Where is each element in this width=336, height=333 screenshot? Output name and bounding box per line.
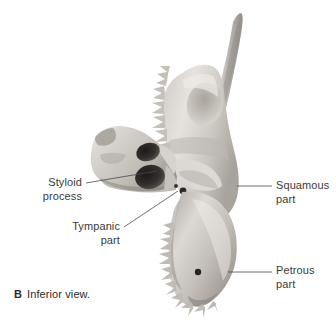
label-tympanic-line2: part xyxy=(24,234,120,248)
label-petrous-line2: part xyxy=(276,278,315,292)
caption-letter: B xyxy=(14,288,22,300)
label-squamous-line2: part xyxy=(276,193,329,207)
label-styloid-line2: process xyxy=(0,190,82,204)
label-tympanic-line1: Tympanic xyxy=(72,220,120,232)
label-petrous-part: Petrous part xyxy=(276,264,315,291)
anatomy-figure: Styloid process Tympanic part Squamous p… xyxy=(0,0,336,333)
figure-caption: BInferior view. xyxy=(14,288,90,300)
label-petrous-line1: Petrous xyxy=(276,264,315,276)
label-styloid-line1: Styloid xyxy=(48,176,82,188)
caption-text: Inferior view. xyxy=(27,288,90,300)
leader-tympanic xyxy=(124,191,178,227)
label-squamous-line1: Squamous xyxy=(276,179,329,191)
label-styloid-process: Styloid process xyxy=(0,176,82,203)
label-tympanic-part: Tympanic part xyxy=(24,220,120,247)
label-squamous-part: Squamous part xyxy=(276,179,329,206)
